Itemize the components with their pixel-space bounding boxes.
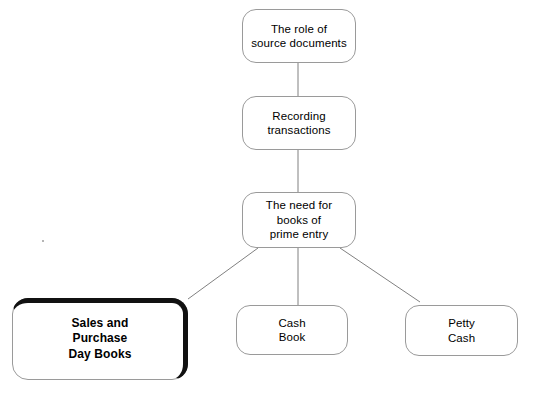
node-role-of-source-documents[interactable]: The role of source documents	[242, 9, 356, 63]
node-petty-cash[interactable]: Petty Cash	[405, 305, 518, 356]
node-label-need-for-books-of-prime-entry: The need for books of prime entry	[262, 198, 336, 242]
node-recording-transactions[interactable]: Recording transactions	[242, 96, 356, 150]
flowchart-canvas: The role of source documentsRecording tr…	[0, 0, 536, 396]
node-label-petty-cash: Petty Cash	[444, 316, 479, 345]
scan-speck	[42, 240, 44, 242]
node-cash-book[interactable]: Cash Book	[236, 305, 348, 355]
node-label-recording-transactions: Recording transactions	[263, 109, 334, 138]
node-sales-and-purchase-day-books[interactable]: Sales and Purchase Day Books	[12, 298, 188, 380]
node-label-role-of-source-documents: The role of source documents	[247, 22, 351, 51]
connector-edge-prime-entry-to-petty-cash	[340, 248, 420, 302]
node-label-cash-book: Cash Book	[274, 316, 309, 345]
connector-edge-prime-entry-to-day-books	[188, 248, 258, 299]
node-need-for-books-of-prime-entry[interactable]: The need for books of prime entry	[242, 192, 356, 248]
node-label-sales-and-purchase-day-books: Sales and Purchase Day Books	[65, 316, 136, 363]
